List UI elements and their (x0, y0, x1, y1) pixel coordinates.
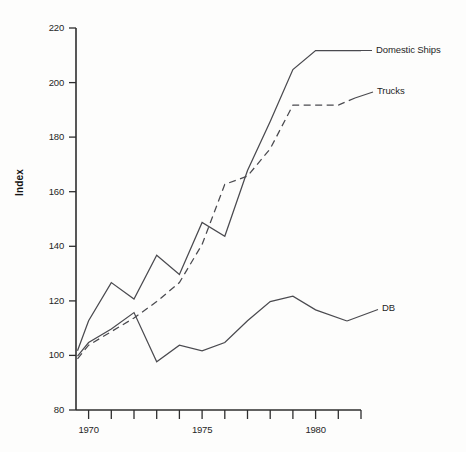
x-tick-label-1975: 1975 (182, 424, 222, 435)
y-tick-label-160: 160 (34, 186, 64, 197)
chart-plot-area (0, 0, 466, 452)
y-tick-label-120: 120 (34, 295, 64, 306)
series-db (78, 296, 348, 362)
axes-group (76, 28, 361, 410)
series-trucks (78, 98, 356, 359)
y-tick-label-100: 100 (34, 349, 64, 360)
y-tick-label-220: 220 (34, 22, 64, 33)
y-tick-label-200: 200 (34, 77, 64, 88)
series-label-domestic-ships: Domestic Ships (376, 44, 441, 55)
x-axis-ticks (89, 410, 361, 419)
leader-line-db (347, 310, 378, 322)
series-label-db: DB (382, 302, 395, 313)
series-line-db (78, 296, 348, 362)
y-tick-label-140: 140 (34, 240, 64, 251)
y-axis-title: Index (14, 169, 25, 196)
series-label-trucks: Trucks (377, 85, 405, 96)
label-leader-lines (316, 51, 378, 322)
series-line-trucks (78, 98, 356, 359)
x-tick-label-1980: 1980 (296, 424, 336, 435)
y-axis-ticks (69, 28, 76, 410)
leader-line-trucks (355, 92, 373, 98)
line-chart: Index 220 200 180 160 140 120 100 80 197… (0, 0, 466, 452)
x-tick-label-1970: 1970 (69, 424, 109, 435)
y-tick-label-180: 180 (34, 131, 64, 142)
y-tick-label-80: 80 (34, 404, 64, 415)
